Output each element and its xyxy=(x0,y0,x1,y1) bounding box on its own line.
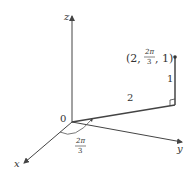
x-axis-label: x xyxy=(14,158,20,169)
point-marker xyxy=(173,55,177,59)
diagram-svg: z y x 0 2 1 (2, 2π 3 , 1) 2π 3 xyxy=(0,0,191,181)
cylindrical-coordinates-diagram: z y x 0 2 1 (2, 2π 3 , 1) 2π 3 xyxy=(0,0,191,181)
angle-label: 2π 3 xyxy=(75,137,86,155)
origin-label: 0 xyxy=(60,113,66,124)
svg-text:3: 3 xyxy=(147,58,151,66)
svg-text:, 1): , 1) xyxy=(155,52,173,65)
svg-text:2π: 2π xyxy=(144,48,154,56)
radius-line xyxy=(72,105,175,122)
y-axis-label: y xyxy=(176,143,183,154)
z-axis-label: z xyxy=(63,11,70,22)
svg-text:2π: 2π xyxy=(75,137,85,145)
x-axis xyxy=(24,122,72,163)
svg-text:3: 3 xyxy=(78,147,82,155)
y-axis xyxy=(72,122,182,142)
radius-label: 2 xyxy=(127,92,133,103)
height-label: 1 xyxy=(167,73,173,84)
point-label: (2, 2π 3 , 1) xyxy=(126,48,173,66)
svg-text:(2,: (2, xyxy=(126,52,141,65)
